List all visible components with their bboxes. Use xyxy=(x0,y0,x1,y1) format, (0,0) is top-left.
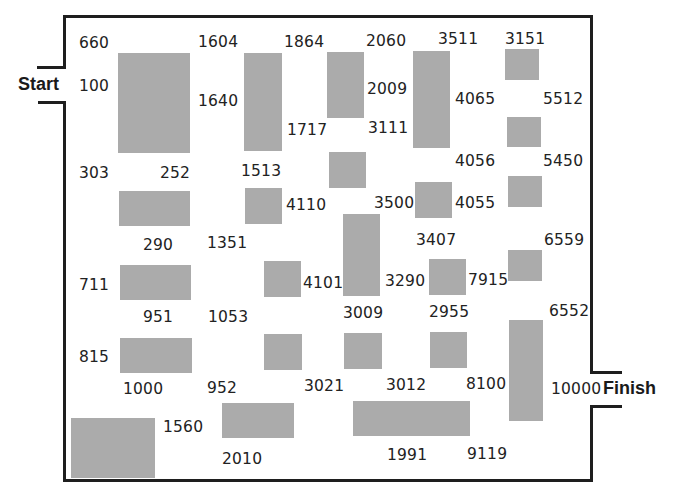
maze-wall-top xyxy=(63,15,592,18)
maze-number[interactable]: 660 xyxy=(79,34,109,52)
maze-block xyxy=(118,53,190,153)
maze-number[interactable]: 1991 xyxy=(387,446,427,464)
maze-number[interactable]: 3021 xyxy=(304,377,344,395)
maze-block xyxy=(329,152,366,188)
maze-number[interactable]: 2009 xyxy=(367,80,407,98)
maze-block xyxy=(222,403,294,438)
maze-number[interactable]: 290 xyxy=(143,236,173,254)
maze-block xyxy=(429,259,466,295)
maze-number[interactable]: 10000 xyxy=(551,380,601,398)
maze-block xyxy=(245,188,282,224)
maze-number[interactable]: 3012 xyxy=(386,376,426,394)
maze-number[interactable]: 815 xyxy=(79,348,109,366)
start-gate-bottom xyxy=(38,101,66,104)
maze-number[interactable]: 3407 xyxy=(416,231,456,249)
maze-wall-right-lower xyxy=(590,405,593,482)
maze-block xyxy=(344,333,382,369)
start-gate-top xyxy=(37,66,66,69)
maze-block xyxy=(508,250,542,281)
maze-wall-bottom xyxy=(63,479,593,482)
maze-block xyxy=(120,265,191,300)
maze-number[interactable]: 1864 xyxy=(284,33,324,51)
maze-number[interactable]: 2955 xyxy=(429,303,469,321)
maze-number[interactable]: 4056 xyxy=(455,152,495,170)
maze-block xyxy=(508,176,542,207)
maze-number[interactable]: 952 xyxy=(207,379,237,397)
maze-number[interactable]: 1351 xyxy=(207,234,247,252)
maze-block xyxy=(264,334,302,370)
maze-number[interactable]: 3009 xyxy=(343,304,383,322)
maze-number[interactable]: 8100 xyxy=(466,375,506,393)
start-label: Start xyxy=(18,74,59,95)
finish-label: Finish xyxy=(603,378,656,399)
maze-block xyxy=(343,214,380,296)
maze-block xyxy=(327,52,364,118)
maze-number[interactable]: 6559 xyxy=(544,231,584,249)
finish-gate-bottom xyxy=(590,405,622,408)
maze-number[interactable]: 2010 xyxy=(222,450,262,468)
maze-block xyxy=(71,418,155,478)
maze-number[interactable]: 4101 xyxy=(303,274,343,292)
maze-wall-right-upper xyxy=(590,15,593,374)
maze-number[interactable]: 100 xyxy=(79,77,109,95)
maze-number[interactable]: 9119 xyxy=(467,445,507,463)
maze-number[interactable]: 1560 xyxy=(163,418,203,436)
maze-number[interactable]: 1604 xyxy=(198,33,238,51)
maze-block xyxy=(119,191,190,226)
maze-block xyxy=(264,261,301,297)
maze-number[interactable]: 711 xyxy=(79,276,109,294)
maze-block xyxy=(120,338,192,373)
maze-block xyxy=(353,401,470,436)
maze-number[interactable]: 6552 xyxy=(549,302,589,320)
maze-number[interactable]: 1640 xyxy=(198,92,238,110)
maze-number[interactable]: 3111 xyxy=(368,119,408,137)
maze-number[interactable]: 951 xyxy=(143,308,173,326)
maze-block xyxy=(507,117,541,147)
maze-number[interactable]: 1053 xyxy=(208,308,248,326)
maze-block xyxy=(413,51,450,148)
maze-number[interactable]: 1717 xyxy=(287,121,327,139)
maze-number[interactable]: 1513 xyxy=(241,162,281,180)
maze-number[interactable]: 3500 xyxy=(374,194,414,212)
maze-wall-left-lower xyxy=(63,101,66,482)
maze-number[interactable]: 3511 xyxy=(438,30,478,48)
maze-number[interactable]: 5450 xyxy=(543,152,583,170)
maze-number[interactable]: 4110 xyxy=(286,196,326,214)
maze-block xyxy=(430,332,467,368)
maze-number[interactable]: 1000 xyxy=(123,380,163,398)
maze-number[interactable]: 3290 xyxy=(385,272,425,290)
maze-block xyxy=(415,182,452,218)
maze-number[interactable]: 2060 xyxy=(366,32,406,50)
maze-number[interactable]: 3151 xyxy=(505,30,545,48)
finish-gate-top xyxy=(590,371,622,374)
maze-number[interactable]: 7915 xyxy=(468,271,508,289)
maze-number[interactable]: 4065 xyxy=(455,90,495,108)
maze-block xyxy=(244,53,282,151)
maze-number[interactable]: 252 xyxy=(160,164,190,182)
maze-block xyxy=(505,49,539,80)
maze-block xyxy=(509,320,543,421)
maze-number[interactable]: 303 xyxy=(79,164,109,182)
maze-number[interactable]: 5512 xyxy=(543,90,583,108)
maze-number[interactable]: 4055 xyxy=(455,194,495,212)
maze-wall-left-upper xyxy=(63,15,66,68)
